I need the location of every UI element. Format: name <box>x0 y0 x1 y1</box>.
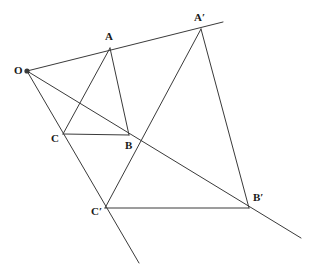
ray-o-through-c-to-cp <box>27 71 139 263</box>
triangle-apbpcp-side-ca <box>105 29 201 208</box>
vertex-dots-group <box>24 68 29 73</box>
geometry-canvas <box>0 0 309 276</box>
vertex-dot-o <box>24 68 29 73</box>
point-label-c-prime: C′ <box>91 206 102 217</box>
triangle-abc-side-ca <box>63 48 110 134</box>
triangle-abc-side-ab <box>110 48 129 135</box>
point-label-o: O <box>14 65 23 76</box>
triangle-abc-side-bc <box>63 134 129 135</box>
point-label-c: C <box>51 133 59 144</box>
homothety-rays-group <box>27 22 301 263</box>
ray-o-through-a-to-ap <box>27 22 223 71</box>
point-label-a: A <box>105 31 113 42</box>
point-label-a-prime: A′ <box>194 12 205 23</box>
point-label-b-prime: B′ <box>253 192 263 203</box>
point-label-b: B <box>125 140 132 151</box>
ray-o-through-b-to-bp <box>27 71 301 238</box>
geometry-figure: O A B C A′ B′ C′ <box>0 0 309 276</box>
